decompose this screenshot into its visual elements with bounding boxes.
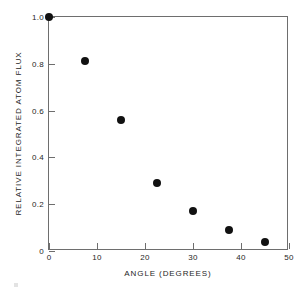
y-axis-tick bbox=[49, 204, 55, 205]
y-axis-title-text: RELATIVE INTEGRATED ATOM FLUX bbox=[14, 51, 23, 215]
figure-canvas: 00.20.40.60.81.0 01020304050 RELATIVE IN… bbox=[0, 0, 305, 291]
x-axis-tick bbox=[97, 243, 98, 249]
y-axis-tick-label: 1.0 bbox=[32, 13, 44, 22]
y-axis-tick-label: 0.2 bbox=[32, 200, 44, 209]
data-point bbox=[225, 226, 233, 234]
x-axis-tick-label: 20 bbox=[140, 253, 150, 262]
y-axis-tick bbox=[49, 64, 55, 65]
x-axis-tick-label: 10 bbox=[92, 253, 102, 262]
y-axis-tick-label: 0.8 bbox=[32, 59, 44, 68]
y-axis-tick-label: 0 bbox=[39, 247, 44, 256]
scan-artifact bbox=[14, 283, 18, 287]
y-axis-tick-label: 0.4 bbox=[32, 153, 44, 162]
y-axis-tick bbox=[49, 251, 55, 252]
data-point bbox=[45, 13, 53, 21]
plot-area: 00.20.40.60.81.0 01020304050 bbox=[48, 16, 288, 250]
x-axis-title: ANGLE (DEGREES) bbox=[48, 269, 288, 278]
data-point bbox=[189, 207, 197, 215]
x-axis-tick bbox=[289, 243, 290, 249]
x-axis-tick bbox=[241, 243, 242, 249]
y-axis-tick-label: 0.6 bbox=[32, 106, 44, 115]
x-axis-tick bbox=[193, 243, 194, 249]
data-point bbox=[81, 57, 89, 65]
y-axis-tick bbox=[49, 157, 55, 158]
data-point bbox=[261, 238, 269, 246]
x-axis-tick-label: 0 bbox=[47, 253, 52, 262]
x-axis-tick bbox=[145, 243, 146, 249]
x-axis-tick bbox=[49, 243, 50, 249]
data-point bbox=[153, 179, 161, 187]
x-axis-tick-label: 30 bbox=[188, 253, 198, 262]
y-axis-tick bbox=[49, 111, 55, 112]
x-axis-tick-label: 50 bbox=[284, 253, 294, 262]
x-axis-tick-label: 40 bbox=[236, 253, 246, 262]
data-point bbox=[117, 116, 125, 124]
y-axis-title: RELATIVE INTEGRATED ATOM FLUX bbox=[13, 16, 24, 250]
